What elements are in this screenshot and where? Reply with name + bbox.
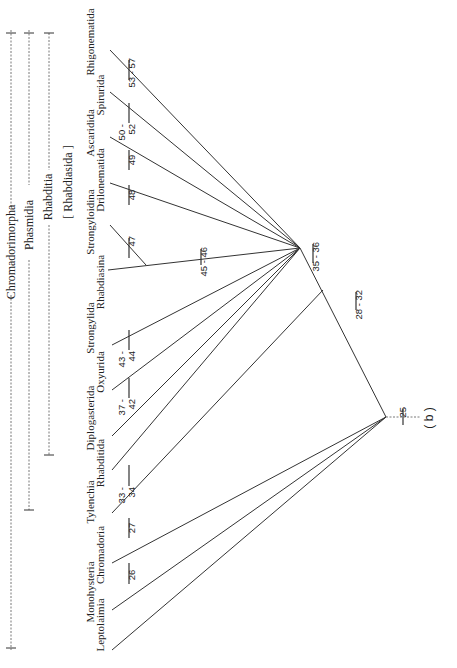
apo-33b: 34 <box>126 487 137 498</box>
apomorphy-labels: 26 27 33 - 34 37 - 42 43 - 44 47 48 49 5… <box>116 58 408 580</box>
taxon-oxyurida: Oxyurida <box>94 351 106 393</box>
branch-monohysteria <box>112 417 386 610</box>
taxon-spirurida: Spirurida <box>94 74 106 115</box>
group-label-chromadorimorpha: Chromadorimorpha <box>4 204 18 299</box>
apo-26: 26 <box>126 570 137 581</box>
group-rhabdiasida: [ Rhabdiasida ] <box>61 145 75 218</box>
apo-50b: 52 <box>126 124 137 135</box>
apo-45: 45 - 46 <box>198 247 209 277</box>
taxon-rhabdiasina: Rhabdiasina <box>94 255 106 309</box>
group-label-phasmidia: Phasmidia <box>22 199 36 250</box>
branch-rhabditida <box>112 248 300 470</box>
apo-28: 28 - 32 <box>353 290 364 320</box>
branch-tylenchia <box>112 290 323 513</box>
apo-49: 49 <box>126 155 137 166</box>
group-rhabditia: Rhabditia <box>41 33 55 455</box>
taxon-rhigonematida: Rhigonematida <box>84 8 96 75</box>
group-label-rhabditia: Rhabditia <box>41 173 55 220</box>
branch-leptolaimia <box>112 417 386 650</box>
apo-37b: 42 <box>126 399 137 410</box>
apomorphy-ticks <box>129 60 403 584</box>
branch-chromadoria <box>112 417 386 563</box>
group-phasmidia: Phasmidia <box>22 30 36 510</box>
taxon-diplogasterida: Diplogasterida <box>84 386 96 451</box>
taxon-chromadoria: Chromadoria <box>94 526 106 584</box>
branch-phasmidia-stem <box>300 248 386 417</box>
cladogram-figure: Chromadorimorpha Phasmidia Rhabditia [ R… <box>0 0 457 668</box>
taxon-labels: Leptolaimia Monohysteria Chromadoria Tyl… <box>84 8 106 651</box>
apo-48: 48 <box>126 190 137 201</box>
apo-35: 35 - 36 <box>310 242 321 272</box>
branches <box>108 50 420 650</box>
apo-25: 25 <box>397 407 408 418</box>
apo-27: 27 <box>126 523 137 534</box>
apo-43b: 44 <box>126 351 137 362</box>
panel-label: ( b ) <box>422 407 436 428</box>
branch-spirurida <box>110 92 300 248</box>
apo-53: 53 - 57 <box>126 58 137 88</box>
group-chromadorimorpha: Chromadorimorpha <box>4 30 18 650</box>
apo-47: 47 <box>126 236 137 247</box>
group-label-rhabdiasida: [ Rhabdiasida ] <box>61 145 75 218</box>
branch-rhigonematida <box>110 50 300 248</box>
